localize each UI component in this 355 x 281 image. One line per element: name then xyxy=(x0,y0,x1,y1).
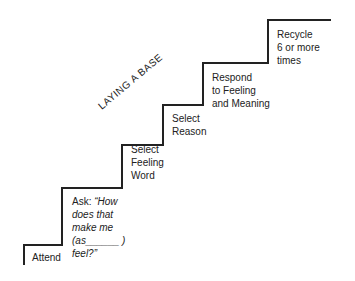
step-text: to Feeling xyxy=(212,84,270,97)
step-text: Word xyxy=(131,169,164,182)
step-select-reason: Select Reason xyxy=(172,112,206,138)
step-text: Respond xyxy=(212,71,270,84)
ask-prefix: Ask: xyxy=(72,196,94,207)
step-text: Attend xyxy=(32,251,61,264)
step-text: Reason xyxy=(172,125,206,138)
step-ask: Ask: “How does that make me (as______ ) … xyxy=(72,195,125,260)
ask-line: feel?” xyxy=(72,247,125,260)
step-recycle: Recycle 6 or more times xyxy=(277,28,320,67)
step-text: and Meaning xyxy=(212,97,270,110)
step-text: times xyxy=(277,54,320,67)
step-select-feeling-word: Select Feeling Word xyxy=(131,143,164,182)
step-respond: Respond to Feeling and Meaning xyxy=(212,71,270,110)
step-text: 6 or more xyxy=(277,41,320,54)
ask-line: (as______ ) xyxy=(72,234,125,247)
ask-line: “How xyxy=(94,196,117,207)
step-text: Feeling xyxy=(131,156,164,169)
step-attend: Attend xyxy=(32,251,61,264)
step-text: Recycle xyxy=(277,28,320,41)
step-text: Select xyxy=(131,143,164,156)
ask-line: make me xyxy=(72,221,125,234)
step-text: Ask: “How xyxy=(72,195,125,208)
ask-line: does that xyxy=(72,208,125,221)
step-text: Select xyxy=(172,112,206,125)
